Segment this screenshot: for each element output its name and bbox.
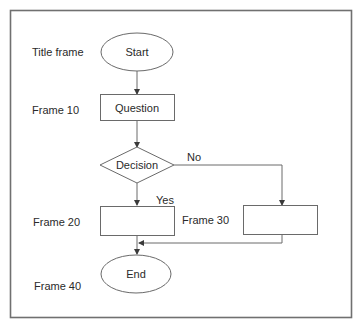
decision-node-label: Decision bbox=[116, 159, 158, 171]
end-node-label: End bbox=[126, 268, 146, 280]
frame30-node bbox=[244, 206, 318, 235]
label-frame-40: Frame 40 bbox=[34, 280, 81, 292]
question-node-label: Question bbox=[115, 102, 159, 114]
edge-decision-no bbox=[174, 165, 282, 205]
label-frame-30: Frame 30 bbox=[182, 214, 229, 226]
yes-label: Yes bbox=[156, 194, 174, 206]
label-frame-10: Frame 10 bbox=[32, 104, 79, 116]
frame20-node bbox=[101, 207, 175, 236]
label-frame-20: Frame 20 bbox=[33, 216, 80, 228]
label-title-frame: Title frame bbox=[32, 46, 84, 58]
start-node-label: Start bbox=[125, 46, 148, 58]
flowchart-diagram: Title frame Frame 10 Frame 20 Frame 30 F… bbox=[0, 0, 358, 327]
no-label: No bbox=[187, 151, 201, 163]
edge-frame30-merge bbox=[139, 235, 282, 243]
